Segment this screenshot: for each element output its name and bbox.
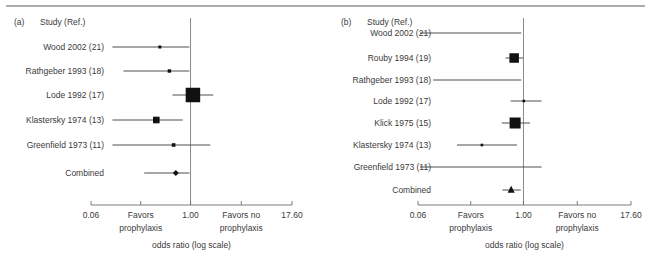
axis-tick-label: 1.00 [515,210,532,220]
study-label: Klastersky 1974 (13) [26,115,104,125]
study-label: Klick 1975 (15) [374,118,431,128]
study-label: Rathgeber 1993 (18) [353,75,432,85]
forest-plot-canvas: (a)Study (Ref.)Wood 2002 (21)Rathgeber 1… [0,0,651,260]
forest-row: Klastersky 1974 (13) [353,140,517,150]
study-label: Combined [392,185,431,195]
panel-letter-b: (b) [341,17,352,27]
axis-tick-label: 0.06 [83,210,100,220]
study-label: Lode 1992 (17) [46,90,104,100]
forest-row: Greenfield 1973 (11) [27,140,211,150]
favors-no-prophylaxis-label: Favors no [558,210,596,220]
forest-row: Klick 1975 (15) [374,118,530,129]
forest-row: Rouby 1994 (19) [368,53,523,63]
axis-tick-label: 0.06 [410,210,427,220]
panel-letter-a: (a) [14,17,25,27]
study-label: Lode 1992 (17) [373,96,431,106]
effect-marker-square [158,46,161,49]
summary-marker-diamond [173,170,179,176]
forest-row: Rathgeber 1993 (18) [353,75,522,85]
summary-marker-triangle [508,186,515,193]
forest-row: Greenfield 1973 (11) [354,162,542,172]
axis-title: odds ratio (log scale) [485,240,564,250]
effect-marker-square [186,88,201,103]
forest-row: Wood 2002 (21) [43,42,189,52]
axis-title: odds ratio (log scale) [152,240,231,250]
study-label: Greenfield 1973 (11) [354,162,432,172]
axis-tick-label: 1.00 [182,210,199,220]
effect-marker-square [510,118,521,129]
column-header-study: Study (Ref.) [367,17,413,27]
effect-marker-square [153,117,160,124]
study-label: Greenfield 1973 (11) [27,140,105,150]
effect-marker-square [481,144,484,147]
study-label: Rathgeber 1993 (18) [26,66,105,76]
effect-marker-square [168,69,171,72]
study-label: Klastersky 1974 (13) [353,140,431,150]
forest-row: Lode 1992 (17) [46,88,213,103]
effect-marker-square [172,143,176,147]
favors-prophylaxis-label: Favors [458,210,484,220]
panel-b: (b)Study (Ref.)Wood 2002 (21)Rouby 1994 … [341,17,642,250]
study-label: Wood 2002 (21) [43,42,104,52]
forest-row: Klastersky 1974 (13) [26,115,183,125]
forest-row: Combined [65,168,189,178]
study-label: Rouby 1994 (19) [368,53,431,63]
x-axis: 0.061.0017.60FavorsprophylaxisFavors nop… [410,201,642,250]
forest-row: Wood 2002 (21) [370,28,521,38]
axis-tick-label: 17.60 [281,210,303,220]
favors-prophylaxis-label: prophylaxis [449,223,492,233]
x-axis: 0.061.0017.60FavorsprophylaxisFavors nop… [83,201,303,250]
effect-marker-square [523,100,526,103]
favors-no-prophylaxis-label: prophylaxis [556,223,599,233]
forest-row: Combined [392,185,521,195]
forest-row: Lode 1992 (17) [373,96,541,106]
axis-tick-label: 17.60 [620,210,642,220]
column-header-study: Study (Ref.) [40,17,86,27]
favors-no-prophylaxis-label: Favors no [222,210,260,220]
favors-prophylaxis-label: prophylaxis [119,223,162,233]
effect-marker-square [509,53,519,63]
panel-a: (a)Study (Ref.)Wood 2002 (21)Rathgeber 1… [14,17,303,250]
study-label: Combined [65,168,104,178]
favors-prophylaxis-label: Favors [128,210,154,220]
forest-plot-figure: (a)Study (Ref.)Wood 2002 (21)Rathgeber 1… [0,0,651,260]
forest-row: Rathgeber 1993 (18) [26,66,190,76]
favors-no-prophylaxis-label: prophylaxis [220,223,263,233]
